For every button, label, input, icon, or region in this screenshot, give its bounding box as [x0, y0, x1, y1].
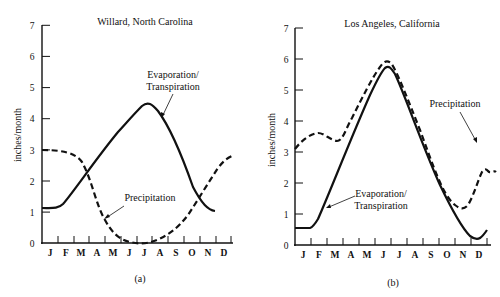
chart-title: Willard, North Carolina: [97, 16, 193, 27]
svg-text:F: F: [63, 248, 69, 258]
svg-text:J: J: [301, 250, 306, 260]
annotation-precip: Precipitation: [429, 98, 480, 109]
svg-text:0: 0: [284, 241, 289, 251]
chart-title: Los Angeles, California: [344, 18, 440, 29]
svg-text:7: 7: [30, 21, 35, 31]
svg-text:J: J: [381, 250, 386, 260]
annotation-precip: Precipitation: [124, 192, 175, 203]
chart-los-angeles: Los Angeles, California 0 1 2 3 4 5 6 7 …: [266, 18, 496, 289]
chart-willard: Willard, North Carolina 0 1 2 3 4 5 6 7 …: [12, 16, 233, 285]
x-ticks: [311, 238, 487, 245]
svg-text:2: 2: [284, 179, 289, 189]
annotation-et-line2: Transpiration: [146, 81, 200, 92]
arrow-precip: [460, 112, 476, 141]
arrowhead-icon: [104, 214, 110, 219]
svg-text:3: 3: [284, 148, 289, 158]
svg-text:5: 5: [30, 83, 35, 93]
svg-text:6: 6: [284, 55, 289, 65]
arrowhead-icon: [473, 137, 477, 143]
x-tick-labels: J F M A M J J A S O N D: [301, 250, 483, 260]
svg-text:M: M: [109, 248, 118, 258]
y-ticks: [295, 28, 303, 214]
svg-text:5: 5: [284, 86, 289, 96]
annotation-et-line2: Transpiration: [354, 200, 408, 211]
arrowhead-icon: [326, 204, 331, 208]
panel-label: (a): [134, 273, 145, 285]
svg-text:A: A: [348, 250, 355, 260]
svg-text:M: M: [363, 250, 372, 260]
svg-text:2: 2: [30, 177, 35, 187]
y-tick-labels: 0 1 2 3 4 5 6 7: [284, 24, 289, 251]
svg-text:N: N: [205, 248, 212, 258]
series-precipitation: [295, 61, 496, 208]
svg-text:J: J: [127, 248, 132, 258]
svg-text:J: J: [397, 250, 402, 260]
series-evapotranspiration: [295, 67, 487, 239]
panel-label: (b): [387, 277, 399, 289]
x-ticks: [58, 236, 231, 243]
svg-text:4: 4: [30, 114, 35, 124]
svg-text:N: N: [460, 250, 467, 260]
svg-text:0: 0: [30, 239, 35, 249]
svg-text:M: M: [331, 250, 340, 260]
svg-text:1: 1: [284, 210, 289, 220]
figure: Willard, North Carolina 0 1 2 3 4 5 6 7 …: [0, 0, 500, 297]
svg-text:O: O: [188, 248, 195, 258]
annotation-et: Evaporation/: [147, 69, 199, 80]
svg-text:F: F: [316, 250, 322, 260]
svg-text:O: O: [443, 250, 450, 260]
svg-text:A: A: [412, 250, 419, 260]
svg-text:3: 3: [30, 146, 35, 156]
svg-text:D: D: [221, 248, 228, 258]
y-axis-label: inches/month: [266, 113, 277, 167]
svg-text:S: S: [173, 248, 178, 258]
svg-text:A: A: [157, 248, 164, 258]
svg-text:M: M: [77, 248, 86, 258]
y-axis-label: inches/month: [12, 108, 23, 162]
y-ticks: [42, 25, 50, 212]
svg-text:6: 6: [30, 52, 35, 62]
svg-text:4: 4: [284, 117, 289, 127]
svg-text:1: 1: [30, 208, 35, 218]
y-tick-labels: 0 1 2 3 4 5 6 7: [30, 21, 35, 249]
svg-text:D: D: [476, 250, 483, 260]
x-tick-labels: J F M A M J J A S O N D: [48, 248, 228, 258]
svg-text:7: 7: [284, 24, 289, 34]
arrow-et: [329, 196, 355, 207]
svg-text:J: J: [142, 248, 147, 258]
svg-text:S: S: [428, 250, 433, 260]
svg-text:A: A: [94, 248, 101, 258]
svg-text:J: J: [48, 248, 53, 258]
annotation-et: Evaporation/: [355, 188, 407, 199]
